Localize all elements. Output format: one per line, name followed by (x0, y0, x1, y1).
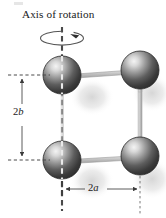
dimension-label-2a-symbol: a (93, 182, 98, 193)
dimension-label-2a: 2a (88, 183, 99, 194)
rotating-rigid-body-figure: Axis of rotation 2b 2a (0, 0, 166, 218)
dimension-label-2b: 2b (13, 107, 24, 118)
axis-of-rotation-label: Axis of rotation (22, 9, 94, 20)
dimension-label-2b-symbol: b (18, 106, 23, 117)
scan-artifact (14, 2, 23, 5)
sphere-top-right (121, 51, 159, 89)
sphere-bottom-right (121, 137, 159, 175)
sphere-shadows (70, 74, 166, 200)
figure-canvas (0, 0, 166, 218)
